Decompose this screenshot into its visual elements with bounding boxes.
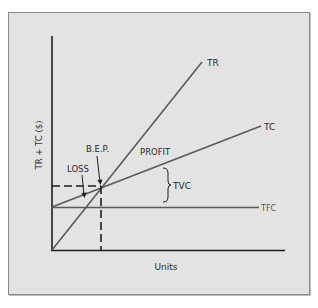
bep-arrow	[97, 156, 100, 182]
break-even-diagram: TR TC TFC B.E.P. LOSS PROFIT TVC Units T…	[0, 0, 318, 308]
tr-label: TR	[206, 58, 219, 68]
bep-arrowhead-icon	[98, 180, 103, 186]
tr-line	[52, 62, 202, 250]
tvc-brace-icon	[163, 168, 171, 202]
tfc-label: TFC	[260, 204, 276, 213]
loss-label: LOSS	[67, 164, 89, 174]
loss-arrow	[82, 175, 84, 195]
tvc-label: TVC	[172, 181, 191, 191]
profit-label: PROFIT	[140, 147, 171, 157]
x-axis-label: Units	[154, 262, 177, 272]
y-axis-label: TR + TC ($)	[34, 121, 44, 171]
tc-label: TC	[263, 122, 275, 132]
bep-label: B.E.P.	[86, 144, 109, 154]
